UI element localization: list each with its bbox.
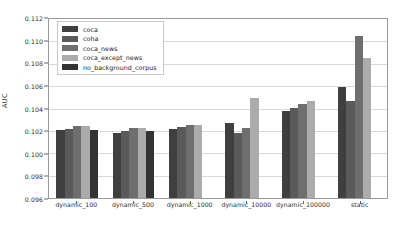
legend-label: coca: [83, 26, 98, 33]
y-tick-label: 0.106: [25, 82, 43, 89]
bar[interactable]: [81, 126, 89, 198]
legend-swatch: [62, 36, 78, 42]
bar[interactable]: [90, 130, 98, 198]
legend-item[interactable]: coca: [62, 25, 157, 33]
bar[interactable]: [225, 123, 233, 198]
bar[interactable]: [298, 104, 306, 198]
legend-label: coha: [83, 35, 98, 42]
bar[interactable]: [113, 133, 121, 198]
legend-swatch: [62, 55, 78, 61]
bar-slot: [234, 19, 242, 198]
legend-item[interactable]: no_background_corpus: [62, 63, 157, 71]
x-tick-mark: [303, 201, 304, 204]
bar[interactable]: [65, 129, 73, 198]
bar[interactable]: [129, 128, 137, 198]
x-tick-mark: [360, 201, 361, 204]
legend-swatch: [62, 45, 78, 51]
bar-slot: [250, 19, 258, 198]
bar-slot: [290, 19, 298, 198]
y-tick-label: 0.108: [25, 60, 43, 67]
bar[interactable]: [146, 131, 154, 198]
bar[interactable]: [73, 126, 81, 198]
y-tick-label: 0.102: [25, 128, 43, 135]
y-axis-ticks: 0.1120.1100.1080.1060.1040.1020.1000.098…: [0, 18, 48, 199]
x-tick-mark: [76, 201, 77, 204]
y-tick-label: 0.104: [25, 105, 43, 112]
legend-label: coca_except_news: [83, 54, 142, 61]
y-tick-label: 0.096: [25, 196, 43, 203]
bar[interactable]: [177, 127, 185, 198]
bar[interactable]: [338, 87, 346, 198]
bar[interactable]: [56, 130, 64, 198]
bar[interactable]: [346, 101, 354, 198]
bar-slot: [371, 19, 379, 198]
bar[interactable]: [194, 125, 202, 198]
x-tick-mark: [246, 201, 247, 204]
bar[interactable]: [186, 125, 194, 198]
bar-slot: [298, 19, 306, 198]
x-axis-labels: dynamic_100dynamic_500dynamic_1000dynami…: [48, 201, 388, 208]
bar-chart-figure: AUC 0.1120.1100.1080.1060.1040.1020.1000…: [0, 0, 398, 226]
bar-slot: [186, 19, 194, 198]
bar[interactable]: [307, 101, 315, 198]
bar-group: [274, 19, 330, 198]
y-tick-label: 0.112: [25, 15, 43, 22]
bar-group: [162, 19, 218, 198]
bar-slot: [259, 19, 267, 198]
bar[interactable]: [355, 36, 363, 198]
legend-swatch: [62, 64, 78, 70]
x-tick-mark: [133, 201, 134, 204]
bar[interactable]: [282, 111, 290, 198]
bar-slot: [355, 19, 363, 198]
bar-slot: [282, 19, 290, 198]
bar-slot: [177, 19, 185, 198]
bar-slot: [194, 19, 202, 198]
bar[interactable]: [250, 98, 258, 198]
bar[interactable]: [138, 128, 146, 198]
bar[interactable]: [290, 108, 298, 198]
bar-group: [331, 19, 387, 198]
bar-slot: [338, 19, 346, 198]
bar-slot: [307, 19, 315, 198]
bar-slot: [169, 19, 177, 198]
bar[interactable]: [169, 129, 177, 198]
bar[interactable]: [121, 131, 129, 198]
legend-item[interactable]: coca_except_news: [62, 54, 157, 62]
y-tick-label: 0.110: [25, 37, 43, 44]
legend-label: coca_news: [83, 45, 118, 52]
y-tick-label: 0.100: [25, 150, 43, 157]
bar-slot: [242, 19, 250, 198]
bar-slot: [315, 19, 323, 198]
bar-group: [218, 19, 274, 198]
legend-item[interactable]: coha: [62, 35, 157, 43]
y-tick-label: 0.098: [25, 173, 43, 180]
bar[interactable]: [363, 58, 371, 198]
bar-slot: [202, 19, 210, 198]
legend-label: no_background_corpus: [83, 64, 157, 71]
bar[interactable]: [242, 128, 250, 198]
legend: cocacohacoca_newscoca_except_newsno_back…: [57, 21, 164, 75]
x-tick-mark: [190, 201, 191, 204]
bar-slot: [225, 19, 233, 198]
bar[interactable]: [234, 133, 242, 198]
legend-item[interactable]: coca_news: [62, 44, 157, 52]
bar-slot: [346, 19, 354, 198]
legend-swatch: [62, 26, 78, 32]
bar-slot: [363, 19, 371, 198]
